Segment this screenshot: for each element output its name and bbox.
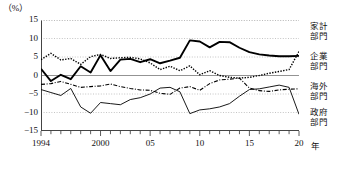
series-line xyxy=(41,78,299,94)
x-tick-label: 15 xyxy=(237,138,261,148)
series-line xyxy=(41,40,299,81)
chart-svg xyxy=(41,20,299,131)
x-axis: 1994200005101520年 xyxy=(0,131,346,161)
y-tick-label: −5 xyxy=(8,88,38,98)
legend-item-1: 家計部門 xyxy=(310,22,328,41)
legend-item-2: 企業部門 xyxy=(310,52,328,71)
x-tick-label: 2000 xyxy=(89,138,113,148)
legend-label-line2: 部門 xyxy=(310,92,328,102)
y-tick-label: 10 xyxy=(8,33,38,43)
chart-figure: （%） 151050−5−10−15 1994200005101520年 家計部… xyxy=(0,0,346,169)
x-tick-label: 20 xyxy=(287,138,311,148)
x-tick-label: 1994 xyxy=(29,138,53,148)
plot-area xyxy=(41,20,299,131)
y-tick-label: −10 xyxy=(8,107,38,117)
y-tick-label: 15 xyxy=(8,14,38,24)
x-tick-label: 10 xyxy=(188,138,212,148)
x-axis-unit-label: 年 xyxy=(311,139,320,151)
legend-item-4: 政府部門 xyxy=(310,108,328,127)
y-axis-unit-label: （%） xyxy=(3,1,28,14)
y-tick-label: 0 xyxy=(8,70,38,80)
y-axis-tick-labels: 151050−5−10−15 xyxy=(5,20,38,131)
legend-label-line2: 部門 xyxy=(310,62,328,72)
series-line xyxy=(41,85,299,114)
legend-label-line2: 部門 xyxy=(310,32,328,42)
legend-item-3: 海外部門 xyxy=(310,82,328,101)
x-tick-label: 05 xyxy=(138,138,162,148)
legend-label-line2: 部門 xyxy=(310,118,328,128)
y-tick-label: 5 xyxy=(8,51,38,61)
